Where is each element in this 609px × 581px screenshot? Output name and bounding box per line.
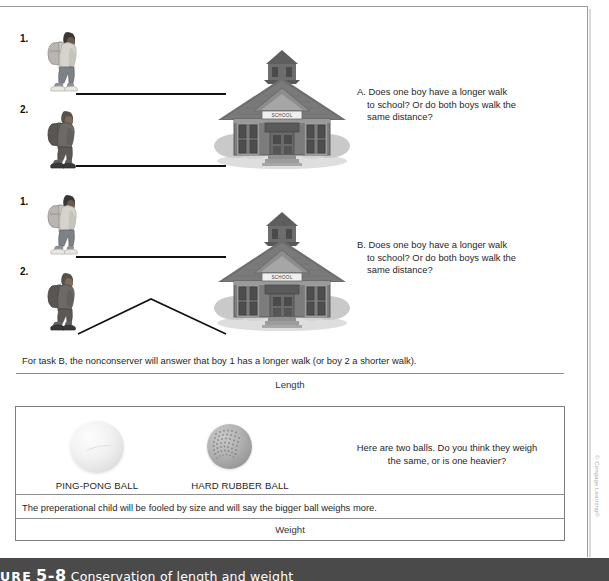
hard-rubber-ball-label: HARD RUBBER BALL xyxy=(178,480,302,491)
task-b-boy2-path-zigzag xyxy=(76,296,228,336)
ping-pong-ball-label: PING-PONG BALL xyxy=(42,480,152,491)
weight-section-label: Weight xyxy=(16,524,564,535)
svg-text:SCHOOL: SCHOOL xyxy=(271,113,292,118)
task-b-boy1-path xyxy=(76,256,226,258)
task-b-question: B. Does one boy have a longer walk to sc… xyxy=(357,239,517,277)
task-a-boy2-figure xyxy=(46,106,84,170)
weight-question-text: Here are two balls. Do you think they we… xyxy=(352,442,542,467)
task-a-question: A. Does one boy have a longer walk to sc… xyxy=(357,86,517,124)
task-a-boy1-path xyxy=(76,93,226,95)
copyright-credit: © Cengage Learning® xyxy=(588,455,600,555)
task-b-boy1-number: 1. xyxy=(20,196,28,207)
task-a-question-text: A. Does one boy have a longer walk to sc… xyxy=(357,86,517,124)
task-a-boy1-figure xyxy=(45,26,85,96)
task-a-boy2-path xyxy=(76,165,226,167)
svg-text:SCHOOL: SCHOOL xyxy=(271,275,292,280)
figure-caption-description: Conservation of length and weight xyxy=(71,569,294,581)
task-a-boy1-number: 1. xyxy=(20,33,28,44)
weight-note-divider-bottom xyxy=(16,518,564,519)
figure-caption-number: 5-8 xyxy=(36,566,66,581)
weight-question: Here are two balls. Do you think they we… xyxy=(352,442,542,467)
length-note-divider xyxy=(16,373,564,374)
task-a-boy2-number: 2. xyxy=(20,104,28,115)
weight-note: The preperational child will be fooled b… xyxy=(22,502,542,513)
task-b-boy2-number: 2. xyxy=(20,266,28,277)
task-b-question-text: B. Does one boy have a longer walk to sc… xyxy=(357,239,517,277)
task-b-school-building: SCHOOL xyxy=(210,210,355,332)
length-note: For task B, the nonconserver will answer… xyxy=(22,355,542,366)
weight-note-divider-top xyxy=(16,494,564,495)
figure-caption: URE 5-8 Conservation of length and weigh… xyxy=(0,566,420,581)
task-b-boy1-figure xyxy=(45,189,85,259)
length-section-label: Length xyxy=(16,379,564,390)
hard-rubber-ball-texture xyxy=(207,424,252,469)
figure-caption-label: URE xyxy=(0,569,32,581)
task-a-school-building: SCHOOL xyxy=(210,48,355,170)
